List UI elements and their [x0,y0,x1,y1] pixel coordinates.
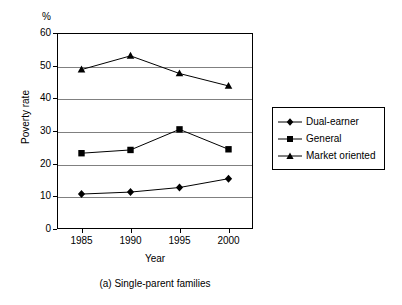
x-tick-mark [131,229,132,233]
diamond-marker-icon [225,175,232,183]
y-tick-label: 40 [17,93,51,103]
x-tick-mark [82,229,83,233]
square-marker-icon [127,147,133,153]
square-marker-icon [277,132,303,146]
series-line [82,129,229,153]
x-tick-mark [229,229,230,233]
y-tick-label: 0 [17,224,51,234]
triangle-marker-icon [277,149,303,163]
triangle-marker-icon [127,52,135,59]
x-tick-label: 1990 [109,236,153,246]
x-tick-mark [180,229,181,233]
square-marker-icon [78,150,84,156]
square-marker-icon [176,126,182,132]
legend-label-market-oriented: Market oriented [303,150,375,161]
series-line [82,179,229,194]
series-general [78,126,231,156]
x-tick-label: 1995 [158,236,202,246]
y-tick-mark [53,229,57,230]
y-tick-label: 20 [17,159,51,169]
square-marker-icon [225,146,231,152]
legend-item-market-oriented: Market oriented [277,147,380,164]
x-tick-label: 2000 [207,236,251,246]
data-series-layer [57,33,253,229]
y-axis-unit-label: % [42,12,51,22]
diamond-marker-icon [176,184,183,192]
diamond-marker-icon [127,188,134,196]
y-tick-label: 10 [17,191,51,201]
series-line [82,56,229,86]
y-tick-label: 60 [17,28,51,38]
legend-item-general: General [277,130,380,147]
diamond-marker-icon [78,190,85,198]
x-axis-title: Year [57,254,253,264]
y-tick-label: 30 [17,126,51,136]
x-tick-label: 1985 [60,236,104,246]
series-dual-earner [78,175,232,198]
legend-label-dual-earner: Dual-earner [303,116,359,127]
series-market-oriented [78,52,233,89]
chart-figure: % Poverty rate 0102030405060 19851990199… [0,0,402,305]
diamond-marker-icon [277,115,303,129]
figure-caption: (a) Single-parent families [57,278,253,289]
legend-item-dual-earner: Dual-earner [277,113,380,130]
legend-label-general: General [303,133,342,144]
chart-legend: Dual-earner General Market oriented [272,107,385,170]
y-axis-title: Poverty rate [21,72,31,162]
y-tick-label: 50 [17,61,51,71]
